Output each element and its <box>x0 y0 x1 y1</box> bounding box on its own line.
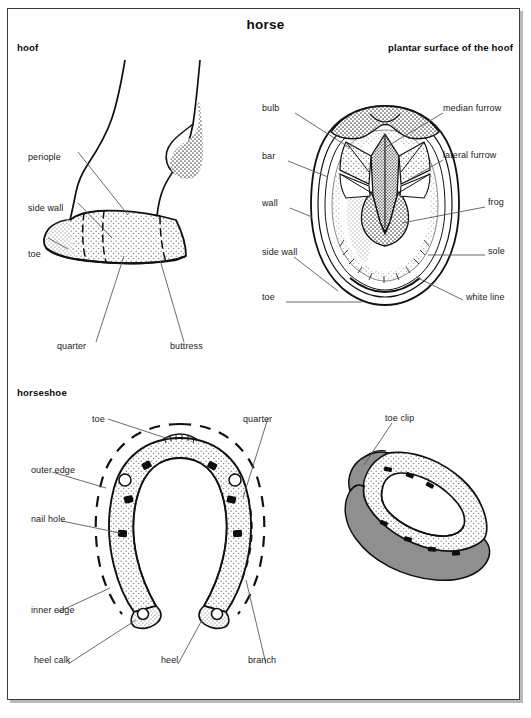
plantar-label-bar: bar <box>262 151 275 161</box>
horseshoe-label-quarter: quarter <box>243 414 272 424</box>
hoof-label-toe: toe <box>28 249 41 259</box>
hoof-label-quarter: quarter <box>57 341 86 351</box>
horseshoe-label-heel: heel <box>161 655 178 665</box>
plantar-label-sole: sole <box>488 246 505 256</box>
plantar-leader-lines <box>250 95 531 325</box>
horseshoe-label-inner-edge: inner edge <box>31 605 75 615</box>
plantar-label-lateral-furrow: lateral furrow <box>443 150 496 160</box>
horseshoe-label-toe: toe <box>92 414 105 424</box>
horseshoe-label-nail-hole: nail hole <box>31 514 65 524</box>
hoof-label-buttress: buttress <box>170 341 203 351</box>
page-title: horse <box>0 17 531 32</box>
section-heading-hoof: hoof <box>17 42 38 53</box>
plantar-label-toe: toe <box>262 292 275 302</box>
plantar-label-white-line: white line <box>466 292 505 302</box>
toeclip-label-toe-clip: toe clip <box>385 413 414 423</box>
section-heading-plantar-surface: plantar surface of the hoof <box>388 42 513 53</box>
section-heading-horseshoe: horseshoe <box>17 387 67 398</box>
hoof-label-side-wall: side wall <box>28 203 63 213</box>
plantar-label-frog: frog <box>488 197 504 207</box>
figure-toe-clip-shoe <box>320 425 515 600</box>
hoof-label-periople: periople <box>28 152 61 162</box>
plantar-label-wall: wall <box>262 198 278 208</box>
diagram-page: horse hoof plantar surface of the hoof h… <box>0 0 531 718</box>
horseshoe-label-outer-edge: outer edge <box>31 465 75 475</box>
horseshoe-label-branch: branch <box>248 655 276 665</box>
figure-horseshoe <box>80 420 280 630</box>
horseshoe-label-heel-calk: heel calk <box>34 655 70 665</box>
plantar-label-side-wall: side wall <box>262 247 297 257</box>
plantar-label-bulb: bulb <box>262 103 279 113</box>
plantar-label-median-furrow: median furrow <box>443 103 501 113</box>
